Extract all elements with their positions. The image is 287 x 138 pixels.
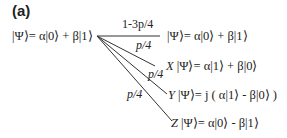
prob-y: p/4	[148, 67, 163, 82]
result-identity: |Ψ⟩= α|0⟩ + β|1⟩	[167, 28, 248, 44]
result-x: X |Ψ⟩= α|1⟩ + β|0⟩	[166, 58, 257, 74]
prob-x: p/4	[136, 38, 151, 53]
operator-x: X	[166, 59, 174, 73]
branch-line-y	[97, 36, 167, 94]
result-y: Y |Ψ⟩= j ( α|1⟩ - β|0⟩ )	[168, 87, 277, 103]
result-z: Z |Ψ⟩= α|0⟩ - β|1⟩	[171, 115, 259, 131]
prob-z: p/4	[127, 87, 142, 102]
prob-identity: 1-3p/4	[122, 17, 153, 32]
operator-z: Z	[171, 116, 178, 130]
operator-y: Y	[168, 88, 175, 102]
